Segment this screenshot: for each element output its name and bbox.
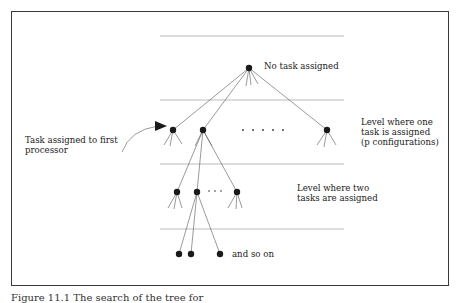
level1-label: Level where one task is assigned (p conf… <box>361 117 439 147</box>
root-label: No task assigned <box>264 61 339 71</box>
first-task-label: Task assigned to first processor <box>25 135 118 155</box>
level3-label: and so on <box>232 249 274 259</box>
arrow-head-icon <box>155 121 167 131</box>
tree-nodes <box>170 65 330 257</box>
tree-edges <box>122 68 336 254</box>
figure-caption: Figure 11.1 The search of the tree for <box>11 292 203 303</box>
level2-label: Level where two tasks are assigned <box>297 183 378 203</box>
